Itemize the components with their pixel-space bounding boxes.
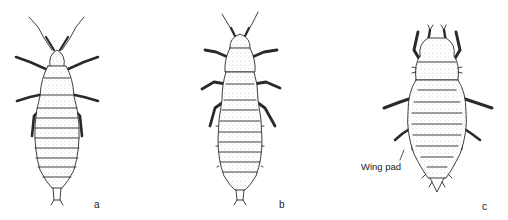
larva-a-drawing <box>16 17 98 205</box>
wing-pad-annotation: Wing pad <box>361 162 401 172</box>
insect-drawings <box>0 0 508 220</box>
figure: a b c Wing pad <box>0 0 508 220</box>
panel-label-c: c <box>482 202 487 212</box>
panel-label-b: b <box>279 200 285 210</box>
panel-label-a: a <box>94 200 100 210</box>
prepupa-b-drawing <box>202 12 280 205</box>
